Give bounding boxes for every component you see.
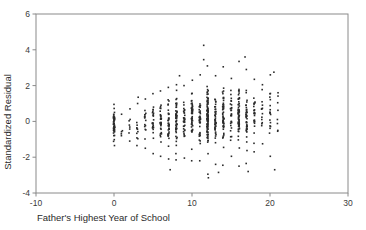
data-point [262, 143, 264, 145]
data-point [199, 133, 201, 135]
data-point [231, 100, 233, 102]
data-point [207, 153, 209, 155]
data-point [270, 74, 272, 76]
data-point [239, 97, 241, 99]
data-point [215, 99, 217, 101]
data-point [136, 133, 138, 135]
data-point [238, 94, 240, 96]
data-point [270, 114, 272, 116]
data-point [191, 122, 193, 124]
data-point [261, 116, 263, 118]
data-point [192, 106, 194, 108]
data-point [191, 116, 193, 118]
data-point [160, 106, 162, 108]
y-tick-label: 4 [25, 45, 30, 55]
data-point [245, 129, 247, 131]
data-point [183, 133, 185, 135]
data-point [192, 125, 194, 127]
data-point [159, 134, 161, 136]
data-point [203, 59, 205, 61]
data-point [160, 125, 162, 127]
data-point [254, 79, 256, 81]
data-point [136, 127, 138, 129]
data-point [223, 126, 225, 128]
data-point [168, 109, 170, 111]
data-point [168, 133, 170, 135]
data-point [238, 110, 240, 112]
data-point [238, 130, 240, 132]
data-point [183, 102, 185, 104]
data-point [222, 108, 224, 110]
data-point [215, 131, 217, 133]
data-point [199, 105, 201, 107]
data-point [144, 129, 146, 131]
data-point [215, 164, 217, 166]
data-point [238, 90, 240, 92]
data-point [128, 120, 130, 122]
data-point [175, 141, 177, 143]
data-point [114, 112, 116, 114]
data-point [222, 164, 224, 166]
data-point [160, 104, 162, 106]
data-point [152, 123, 154, 125]
data-point [192, 129, 194, 131]
data-point [238, 92, 240, 94]
data-point [270, 93, 272, 95]
plot-background [0, 0, 366, 230]
data-point [207, 91, 209, 93]
data-point [191, 113, 193, 115]
data-point [270, 99, 272, 101]
data-point [222, 136, 224, 138]
data-point [153, 106, 155, 108]
data-point [261, 122, 263, 124]
data-point [200, 113, 202, 115]
data-point [168, 126, 170, 128]
data-point [246, 69, 248, 71]
data-point [238, 139, 240, 141]
data-point [175, 153, 177, 155]
data-point [144, 110, 146, 112]
data-point [183, 121, 185, 123]
data-point [183, 128, 185, 130]
data-point [245, 92, 247, 94]
data-point [207, 103, 209, 105]
data-point [270, 122, 272, 124]
data-point [231, 107, 233, 109]
data-point [167, 103, 169, 105]
data-point [238, 89, 240, 91]
data-point [269, 119, 271, 121]
data-point [230, 139, 232, 141]
data-point [176, 119, 178, 121]
data-point [198, 117, 200, 119]
data-point [222, 107, 224, 109]
data-point [222, 104, 224, 106]
data-point [152, 93, 154, 95]
y-tick-label: 2 [25, 81, 30, 91]
data-point [245, 105, 247, 107]
data-point [230, 125, 232, 127]
data-point [261, 108, 263, 110]
y-tick-label: 0 [25, 116, 30, 126]
data-point [223, 87, 225, 89]
data-point [218, 172, 220, 174]
data-point [222, 114, 224, 116]
data-point [122, 130, 124, 132]
data-point [245, 117, 247, 119]
data-point [246, 107, 248, 109]
data-point [207, 131, 209, 133]
data-point [244, 56, 246, 58]
data-point [238, 103, 240, 105]
data-point [254, 125, 256, 127]
data-point [247, 171, 249, 173]
data-point [152, 127, 154, 129]
data-point [152, 153, 154, 155]
data-point [238, 113, 240, 115]
data-point [277, 92, 279, 94]
data-point [231, 78, 233, 80]
data-point [253, 97, 255, 99]
data-point [136, 145, 138, 147]
data-point [153, 119, 155, 121]
data-point [191, 110, 193, 112]
data-point [238, 122, 240, 124]
data-point [160, 156, 162, 158]
